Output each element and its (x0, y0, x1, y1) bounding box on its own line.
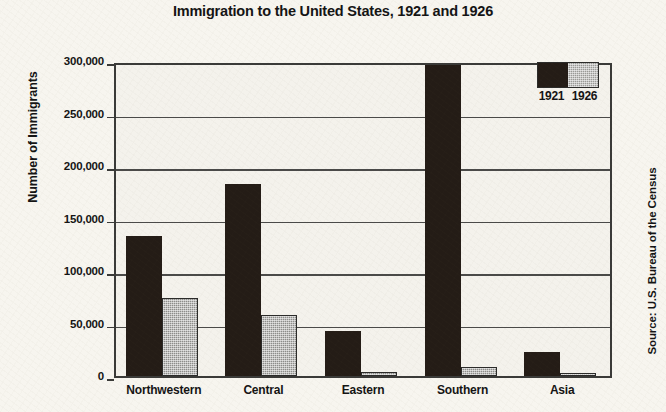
y-axis-tick-mark (107, 117, 114, 119)
bar-1926-central (261, 315, 297, 376)
y-axis-tick-label: 250,000 (64, 108, 104, 120)
x-axis-label-asia: Asia (512, 383, 612, 397)
bar-1926-eastern (361, 372, 397, 376)
bar-1921-central (225, 184, 261, 376)
bar-1926-northwestern (162, 298, 198, 376)
y-axis-tick-mark (107, 222, 114, 224)
y-axis-tick-label: 200,000 (64, 160, 104, 172)
source-note: Source: U.S. Bureau of the Census (646, 131, 658, 391)
y-axis-tick-mark (107, 327, 114, 329)
y-axis-tick-labels: 050,000100,000150,000200,000250,000300,0… (14, 63, 104, 378)
bar-group (325, 65, 397, 376)
y-axis-tick-label: 300,000 (64, 55, 104, 67)
bar-group (225, 65, 297, 376)
legend-labels: 1921 1926 (535, 89, 601, 103)
legend-swatch-1926 (568, 63, 598, 87)
y-axis-tick-label: 0 (98, 370, 104, 382)
legend-swatches (537, 62, 599, 88)
y-axis-tick-label: 50,000 (70, 318, 104, 330)
y-axis-tick-label: 150,000 (64, 213, 104, 225)
y-axis-tick-label: 100,000 (64, 265, 104, 277)
bar-1921-asia (524, 352, 560, 376)
plot-area (114, 63, 612, 378)
bar-1921-eastern (325, 331, 361, 376)
legend: 1921 1926 (537, 62, 599, 103)
bar-1926-asia (560, 373, 596, 376)
y-axis-tick-mark (107, 379, 114, 381)
bar-1926-southern (461, 367, 497, 376)
y-axis-tick-mark (107, 64, 114, 66)
legend-swatch-1921 (538, 63, 568, 87)
bar-group (126, 65, 198, 376)
y-axis-tick-mark (107, 169, 114, 171)
legend-label-1921: 1921 (535, 89, 568, 103)
legend-label-1926: 1926 (568, 89, 601, 103)
chart-title: Immigration to the United States, 1921 a… (0, 3, 666, 19)
x-axis-label-eastern: Eastern (313, 383, 413, 397)
bar-group (524, 65, 596, 376)
bar-1921-northwestern (126, 236, 162, 376)
x-axis-label-central: Central (214, 383, 314, 397)
x-axis-category-labels: NorthwesternCentralEasternSouthernAsia (114, 383, 612, 407)
x-axis-label-southern: Southern (413, 383, 513, 397)
bar-group (425, 65, 497, 376)
y-axis-tick-mark (107, 274, 114, 276)
bar-chart: Immigration to the United States, 1921 a… (0, 0, 666, 412)
bar-1921-southern (425, 65, 461, 376)
x-axis-label-northwestern: Northwestern (114, 383, 214, 397)
